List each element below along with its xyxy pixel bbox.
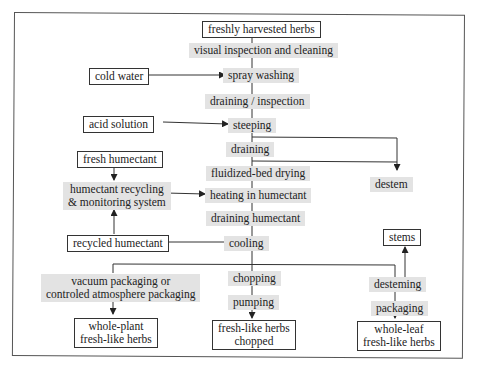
node-label: cold water	[95, 70, 143, 82]
node-label: chopping	[233, 272, 276, 284]
node-spray-washing: spray washing	[223, 68, 299, 83]
node-label: spray washing	[228, 69, 294, 81]
node-label: visual inspection and cleaning	[194, 44, 333, 56]
node-label: packaging	[376, 302, 423, 314]
node-label: controled atmosphere packaging	[46, 288, 195, 301]
node-label: heating in humectant	[210, 189, 306, 201]
node-label: desteming	[374, 278, 421, 290]
node-recycled-humectant: recycled humectant	[67, 235, 169, 252]
node-draining-inspection: draining / inspection	[205, 94, 310, 109]
node-label: vacuum packaging or	[46, 275, 195, 288]
node-label: cooling	[229, 237, 264, 249]
node-draining-humectant: draining humectant	[206, 211, 305, 226]
node-label: draining	[231, 143, 269, 155]
node-label: fresh-like herbs	[80, 333, 152, 346]
node-label: fresh humectant	[83, 153, 157, 165]
node-fluidized-bed-drying: fluidized-bed drying	[206, 166, 310, 181]
node-cold-water: cold water	[89, 68, 149, 85]
node-draining: draining	[226, 142, 274, 157]
node-acid-solution: acid solution	[83, 116, 154, 133]
node-cooling: cooling	[224, 236, 269, 251]
node-label: pumping	[233, 296, 274, 308]
node-whole-plant-output: whole-plant fresh-like herbs	[74, 318, 158, 348]
node-pumping: pumping	[228, 295, 279, 310]
node-label: freshly harvested herbs	[208, 23, 315, 35]
node-label: whole-leaf	[363, 323, 435, 336]
node-label: whole-plant	[80, 320, 152, 333]
node-humectant-recycling: humectant recycling & monitoring system	[63, 182, 171, 210]
node-vacuum-packaging: vacuum packaging or controled atmosphere…	[41, 274, 200, 302]
node-label: draining humectant	[211, 212, 300, 224]
node-label: draining / inspection	[210, 95, 305, 107]
node-chopping: chopping	[228, 271, 281, 286]
node-destem: destem	[370, 177, 413, 192]
node-fresh-humectant: fresh humectant	[77, 151, 163, 168]
node-label: & monitoring system	[68, 196, 166, 209]
node-chopped-output: fresh-like herbs chopped	[212, 320, 296, 350]
node-freshly-harvested-herbs: freshly harvested herbs	[202, 21, 321, 38]
node-whole-leaf-output: whole-leaf fresh-like herbs	[357, 321, 441, 351]
node-label: humectant recycling	[68, 183, 166, 196]
node-label: destem	[375, 178, 408, 190]
node-label: steeping	[233, 119, 271, 131]
node-label: fluidized-bed drying	[211, 167, 305, 179]
node-packaging: packaging	[371, 301, 428, 316]
node-label: fresh-like herbs	[218, 322, 290, 335]
node-desteming: desteming	[369, 277, 426, 292]
node-label: fresh-like herbs	[363, 336, 435, 349]
node-label: stems	[389, 231, 415, 243]
node-steeping: steeping	[228, 118, 276, 133]
node-label: recycled humectant	[73, 237, 163, 249]
node-stems: stems	[383, 229, 421, 246]
node-heating-in-humectant: heating in humectant	[205, 188, 311, 203]
node-visual-inspection: visual inspection and cleaning	[189, 43, 338, 58]
node-label: chopped	[218, 335, 290, 348]
node-label: acid solution	[89, 118, 148, 130]
